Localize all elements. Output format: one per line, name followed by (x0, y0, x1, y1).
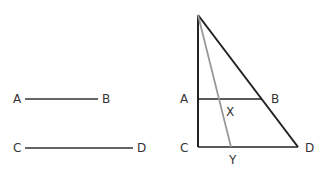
label-d-right: D (305, 141, 314, 155)
right-figure: A B X C D Y (180, 15, 314, 167)
geometry-diagram: A B C D A B X C D Y (0, 0, 328, 175)
label-a-right: A (180, 92, 189, 106)
label-y: Y (228, 153, 237, 167)
left-figure: A B C D (13, 92, 146, 155)
hypotenuse (198, 15, 298, 147)
label-d-left: D (137, 141, 146, 155)
label-b-right: B (271, 92, 279, 106)
label-c-right: C (180, 141, 188, 155)
median-line (198, 15, 231, 147)
label-a-left: A (13, 92, 22, 106)
label-b-left: B (102, 92, 110, 106)
label-c-left: C (13, 141, 21, 155)
label-x: X (226, 105, 234, 119)
